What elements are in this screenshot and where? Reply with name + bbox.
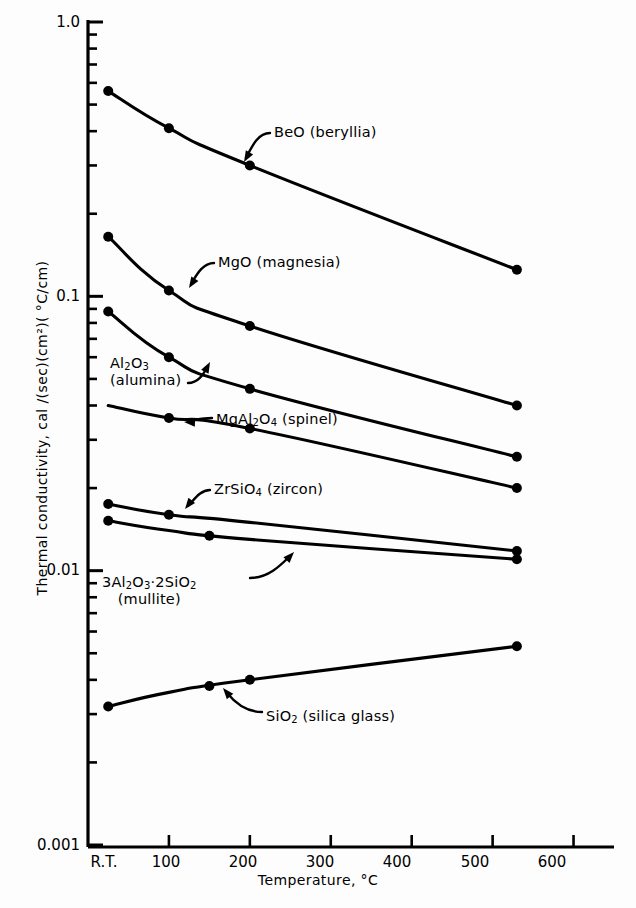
data-point: [512, 452, 522, 462]
x-axis-ticks: [169, 835, 574, 847]
data-point: [103, 516, 113, 526]
curve-label-alumina: Al2O3(alumina): [110, 355, 181, 388]
data-point: [164, 510, 174, 520]
data-point: [164, 286, 174, 296]
y-tick-label-1: 1.0: [22, 13, 80, 31]
data-point: [245, 384, 255, 394]
data-point: [103, 86, 113, 96]
series-line-5: [108, 521, 517, 560]
series-line-6: [108, 646, 517, 706]
curve-label-mgo: MgO (magnesia): [218, 254, 341, 270]
data-point: [204, 681, 214, 691]
y-tick-label-0_001: 0.001: [6, 836, 80, 854]
data-point: [103, 307, 113, 317]
x-tick-label-400: 400: [383, 853, 412, 871]
x-tick-label-200: 200: [229, 853, 258, 871]
data-point: [512, 641, 522, 651]
x-tick-label-600: 600: [538, 853, 567, 871]
data-point: [245, 321, 255, 331]
y-axis-ticks: [88, 22, 103, 845]
leader-arrowhead: [201, 360, 214, 374]
data-point: [204, 531, 214, 541]
data-point: [164, 123, 174, 133]
data-point: [103, 701, 113, 711]
curve-label-beo: BeO (beryllia): [274, 124, 377, 140]
x-axis-title: Temperature, °C: [218, 872, 418, 888]
x-tick-label-100: 100: [152, 853, 181, 871]
data-markers: [103, 86, 522, 711]
x-tick-label-rt: R.T.: [91, 853, 118, 871]
data-point: [245, 675, 255, 685]
data-point: [512, 265, 522, 275]
y-tick-label-0_1: 0.1: [22, 287, 80, 305]
leader-line: [227, 693, 262, 712]
data-point: [103, 232, 113, 242]
y-tick-label-0_01: 0.01: [14, 561, 80, 579]
curve-label-mullite: 3Al2O3·2SiO2(mullite): [102, 574, 197, 607]
series-line-0: [108, 91, 517, 270]
data-point: [512, 554, 522, 564]
curve-label-zircon: ZrSiO4 (zircon): [214, 481, 323, 498]
x-tick-label-500: 500: [461, 853, 490, 871]
curve-label-spinel: MgAl2O4 (spinel): [216, 411, 338, 428]
data-point: [245, 160, 255, 170]
x-tick-label-300: 300: [306, 853, 335, 871]
thermal-conductivity-chart: Thermal conductivity, cal /(sec)(cm²)( °…: [0, 0, 636, 908]
data-point: [512, 401, 522, 411]
leader-arrowhead: [185, 276, 198, 290]
data-curves: [108, 91, 517, 706]
curve-label-silica: SiO2 (silica glass): [266, 708, 395, 725]
data-point: [103, 499, 113, 509]
leader-line: [250, 556, 290, 578]
data-point: [164, 413, 174, 423]
data-point: [512, 483, 522, 493]
